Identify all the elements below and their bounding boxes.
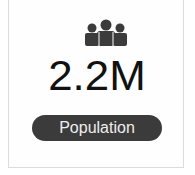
stat-label-badge: Population [32, 115, 162, 141]
stat-value: 2.2M [7, 52, 187, 98]
people-group-icon [82, 19, 130, 47]
population-stat-card: 2.2M Population [8, 0, 184, 168]
